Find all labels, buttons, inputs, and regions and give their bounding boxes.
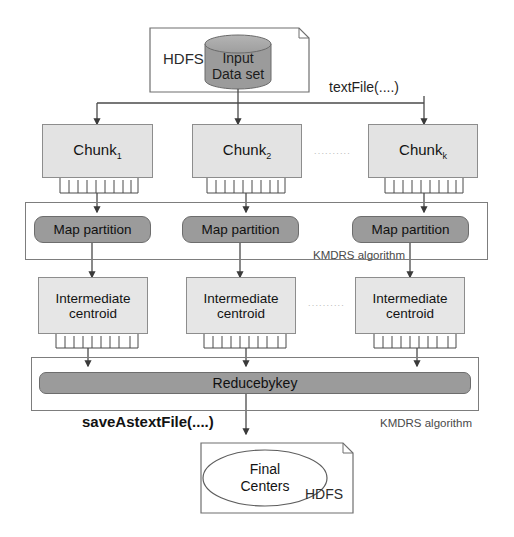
chunk-box-1: Chunk1: [42, 124, 153, 178]
reducebykey-label: Reducebykey: [213, 375, 298, 391]
chunk-label-3: Chunkk: [399, 141, 447, 161]
final-centers-line2: Centers: [225, 478, 305, 495]
kmdrs-label-reduce-stage: KMDRS algorithm: [380, 417, 472, 429]
chunk-label-1: Chunk1: [73, 141, 121, 161]
saveastextfile-operation-label: saveAstextFile(....): [82, 413, 214, 430]
comb-connector-chunk-3: [385, 178, 463, 193]
input-dataset-label: Input Data set: [206, 50, 270, 82]
comb-connector-chunk-1: [60, 178, 138, 193]
map-partition-box-1: Map partition: [34, 216, 151, 243]
input-dataset-line2: Data set: [206, 66, 270, 82]
chunk-box-3: Chunkk: [368, 124, 478, 178]
centroid-ellipsis: ..........: [308, 298, 345, 308]
reducebykey-box: Reducebykey: [39, 372, 471, 394]
comb-connector-chunk-2: [207, 178, 285, 193]
chunk-ellipsis: ..........: [314, 146, 351, 156]
map-partition-box-2: Map partition: [182, 216, 299, 243]
intermediate-centroid-box-3: Intermediate centroid: [355, 277, 465, 334]
kmdrs-label-map-stage: KMDRS algorithm: [313, 249, 405, 261]
chunk-label-2: Chunk2: [223, 141, 271, 161]
intermediate-centroid-label-3: Intermediate centroid: [372, 291, 447, 321]
comb-connector-centroid-1: [56, 334, 138, 348]
chunk-box-2: Chunk2: [192, 124, 302, 178]
map-partition-box-3: Map partition: [352, 216, 469, 243]
comb-connector-centroid-3: [374, 334, 456, 348]
map-partition-label-1: Map partition: [53, 222, 131, 237]
final-centers-label: Final Centers: [225, 461, 305, 495]
comb-connector-centroid-2: [204, 334, 286, 348]
intermediate-centroid-box-1: Intermediate centroid: [38, 277, 148, 334]
final-centers-line1: Final: [225, 461, 305, 478]
textfile-operation-label: textFile(....): [329, 79, 399, 95]
hdfs-source-label: HDFS: [163, 50, 204, 67]
intermediate-centroid-box-2: Intermediate centroid: [186, 277, 296, 334]
intermediate-centroid-label-2: Intermediate centroid: [203, 291, 278, 321]
diagram-canvas: HDFS Input Data set textFile(....) Chunk…: [0, 0, 514, 537]
map-partition-label-2: Map partition: [201, 222, 279, 237]
map-partition-label-3: Map partition: [371, 222, 449, 237]
intermediate-centroid-label-1: Intermediate centroid: [55, 291, 130, 321]
input-dataset-line1: Input: [206, 50, 270, 66]
hdfs-sink-label: HDFS: [305, 486, 343, 502]
